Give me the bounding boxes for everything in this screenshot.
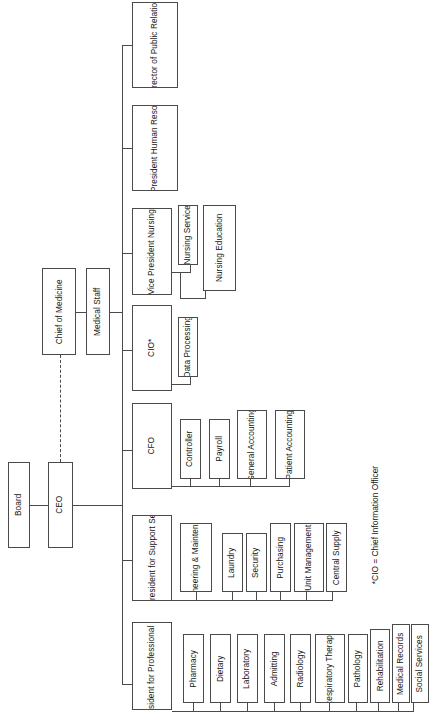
node-nursing-education[interactable]: Nursing Education bbox=[203, 205, 236, 291]
node-security[interactable]: Security bbox=[246, 533, 267, 592]
node-general-accounting-label: General Accounting bbox=[247, 410, 257, 479]
stub-general-accounting bbox=[250, 478, 251, 487]
node-chief-of-medicine-label: Chief of Medicine bbox=[54, 279, 64, 344]
node-social-services[interactable]: Social Services bbox=[411, 624, 429, 703]
node-social-services-label: Social Services bbox=[415, 635, 425, 692]
node-security-label: Security bbox=[252, 547, 262, 577]
node-purchasing-label: Purchasing bbox=[276, 537, 286, 579]
node-chief-of-medicine[interactable]: Chief of Medicine bbox=[42, 268, 76, 355]
node-pathology-label: Pathology bbox=[353, 650, 363, 687]
stub-social-services bbox=[413, 703, 414, 712]
node-payroll-label: Payroll bbox=[215, 436, 225, 462]
edge-nursing-service bbox=[180, 272, 190, 273]
node-engineering-maintenance[interactable]: Engineering & Maintenance bbox=[180, 523, 212, 592]
edge-spine-public-relations bbox=[122, 45, 132, 46]
node-vp-support-services-label: Vice President for Support Services bbox=[147, 515, 157, 601]
edge-vp-support-substem bbox=[172, 600, 182, 601]
nursing-sub-spine bbox=[180, 272, 181, 299]
stub-medical-records bbox=[398, 703, 399, 712]
stub-payroll bbox=[219, 478, 220, 487]
node-nursing-service[interactable]: Nursing Service bbox=[178, 205, 198, 265]
node-vp-professional-services-label: Vice President for Professional Services bbox=[147, 622, 157, 710]
node-medical-staff-label: Medical Staff bbox=[93, 287, 103, 335]
node-unit-management[interactable]: Unit Management bbox=[294, 523, 324, 592]
main-spine bbox=[122, 45, 123, 685]
node-vp-professional-services[interactable]: Vice President for Professional Services bbox=[132, 622, 172, 710]
node-general-accounting[interactable]: General Accounting bbox=[237, 410, 267, 479]
data-processing-stub bbox=[190, 376, 191, 385]
node-medical-records[interactable]: Medical Records bbox=[392, 624, 410, 703]
nursing-service-stub bbox=[190, 264, 191, 273]
node-purchasing[interactable]: Purchasing bbox=[270, 523, 291, 592]
node-cio[interactable]: CIO* bbox=[132, 305, 172, 391]
edge-spine-cio bbox=[122, 350, 132, 351]
node-medical-staff[interactable]: Medical Staff bbox=[86, 268, 110, 355]
node-admitting-label: Admitting bbox=[270, 651, 280, 686]
node-unit-management-label: Unit Management bbox=[304, 524, 314, 590]
edge-chief-medicine-medical-staff bbox=[76, 312, 86, 313]
stub-radiology bbox=[300, 703, 301, 712]
node-radiology[interactable]: Radiology bbox=[290, 634, 311, 703]
edge-chief-medicine-ceo-dashed bbox=[60, 355, 61, 462]
node-rehabilitation[interactable]: Rehabilitation bbox=[370, 629, 390, 703]
node-payroll[interactable]: Payroll bbox=[209, 419, 230, 479]
node-nursing-education-label: Nursing Education bbox=[215, 214, 225, 283]
node-pharmacy[interactable]: Pharmacy bbox=[183, 634, 204, 703]
node-director-public-relations[interactable]: Director of Public Relations bbox=[132, 2, 178, 88]
org-chart-canvas: Board CEO Chief of Medicine Medical Staf… bbox=[0, 0, 431, 715]
stub-controller bbox=[190, 478, 191, 487]
node-cfo[interactable]: CFO bbox=[132, 403, 172, 489]
node-controller-label: Controller bbox=[186, 431, 196, 468]
edge-cfo-substem bbox=[172, 486, 182, 487]
node-pharmacy-label: Pharmacy bbox=[189, 650, 199, 688]
node-ceo-label: CEO bbox=[56, 496, 66, 514]
edge-spine-cfo bbox=[122, 450, 132, 451]
edge-spine-vp-support bbox=[122, 560, 132, 561]
footnote-cio: *CIO = Chief Information Officer bbox=[330, 445, 420, 605]
node-vp-human-resources[interactable]: Vice President Human Resources bbox=[132, 105, 178, 191]
node-respiratory-therapy-label: Respiratory Therapy bbox=[325, 634, 335, 703]
footnote-cio-text: *CIO = Chief Information Officer bbox=[370, 466, 380, 584]
node-dietary-label: Dietary bbox=[216, 655, 226, 682]
node-admitting[interactable]: Admitting bbox=[264, 634, 285, 703]
node-ceo[interactable]: CEO bbox=[48, 462, 73, 548]
stub-laundry bbox=[232, 592, 233, 601]
stub-unit-management bbox=[306, 592, 307, 601]
support-sub-spine bbox=[182, 600, 332, 601]
stub-rehabilitation bbox=[378, 703, 379, 712]
edge-ceo-to-spine bbox=[73, 505, 122, 506]
node-vp-human-resources-label: Vice President Human Resources bbox=[150, 105, 160, 191]
stub-purchasing bbox=[280, 592, 281, 601]
node-respiratory-therapy[interactable]: Respiratory Therapy bbox=[315, 634, 345, 703]
node-rehabilitation-label: Rehabilitation bbox=[375, 640, 385, 691]
node-cio-label: CIO* bbox=[147, 339, 157, 357]
edge-spine-vp-nursing bbox=[122, 253, 132, 254]
node-laboratory[interactable]: Laboratory bbox=[237, 634, 258, 703]
edge-spine-vp-professional bbox=[122, 684, 132, 685]
node-laboratory-label: Laboratory bbox=[243, 648, 253, 688]
stub-admitting bbox=[274, 703, 275, 712]
node-vp-nursing[interactable]: Vice President Nursing bbox=[132, 208, 172, 295]
node-patient-accounting[interactable]: Patient Accounting bbox=[275, 410, 305, 479]
node-controller[interactable]: Controller bbox=[180, 419, 201, 479]
node-board-label: Board bbox=[14, 494, 24, 516]
stub-engineering-maintenance bbox=[196, 592, 197, 601]
nursing-education-stub bbox=[205, 290, 206, 299]
node-dietary[interactable]: Dietary bbox=[210, 634, 231, 703]
node-vp-support-services[interactable]: Vice President for Support Services bbox=[132, 515, 172, 601]
edge-nursing-education bbox=[180, 298, 205, 299]
node-board[interactable]: Board bbox=[8, 462, 30, 548]
stub-patient-accounting bbox=[289, 478, 290, 487]
node-vp-nursing-label: Vice President Nursing bbox=[147, 209, 157, 294]
edge-vp-professional-substem bbox=[172, 711, 182, 712]
node-medical-records-label: Medical Records bbox=[396, 632, 406, 694]
node-data-processing[interactable]: Data Processing bbox=[178, 317, 198, 377]
stub-pathology bbox=[356, 703, 357, 712]
node-pathology[interactable]: Pathology bbox=[348, 634, 368, 703]
stub-dietary bbox=[220, 703, 221, 712]
node-laundry[interactable]: Laundry bbox=[222, 533, 243, 592]
cfo-sub-spine bbox=[182, 486, 290, 487]
edge-medical-staff-spine bbox=[110, 312, 122, 313]
node-nursing-service-label: Nursing Service bbox=[183, 205, 193, 264]
node-data-processing-label: Data Processing bbox=[183, 317, 193, 377]
